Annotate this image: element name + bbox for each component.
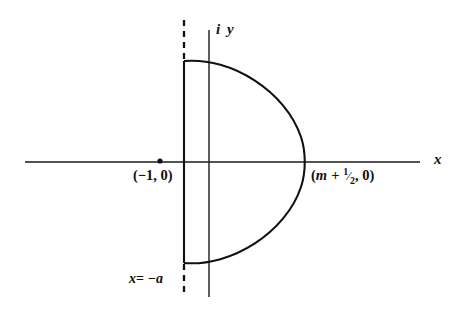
x-axis-label: x: [434, 152, 442, 167]
dashed-line-label: x= −a: [129, 272, 163, 286]
iy-axis-label: i y: [216, 22, 235, 37]
dashed-label-variable: x: [129, 271, 136, 286]
point-label-minus-one: (−1, 0): [133, 168, 173, 183]
point-marker-minus-one: [157, 158, 162, 163]
right-label-fraction: 1⁄2: [343, 168, 355, 186]
dashed-label-equals: =: [136, 271, 144, 286]
dashed-label-value: −a: [147, 271, 162, 286]
fraction-denominator: 2: [350, 175, 355, 186]
point-label-m-plus-half: (m + 1⁄2, 0): [311, 168, 374, 187]
figure-container: x i y (−1, 0) (m + 1⁄2, 0) x= −a: [0, 0, 465, 315]
right-label-variable: m: [316, 167, 327, 183]
fraction-numerator: 1: [343, 167, 348, 178]
right-label-plus-sign: +: [331, 167, 339, 183]
right-label-suffix: , 0): [355, 167, 374, 183]
contour-diagram-svg: [0, 0, 465, 315]
